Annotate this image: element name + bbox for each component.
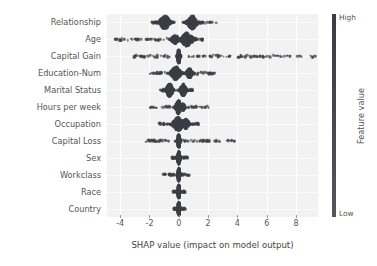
x-tick-label: -2 <box>145 219 153 228</box>
data-point <box>175 156 178 159</box>
data-point <box>172 190 175 193</box>
data-point <box>177 146 180 149</box>
data-point <box>171 124 174 127</box>
data-point <box>265 55 268 58</box>
data-point <box>164 26 167 29</box>
data-point <box>170 91 173 94</box>
data-point <box>183 140 186 143</box>
data-point <box>150 21 153 24</box>
data-point <box>198 140 201 143</box>
y-tick-label: Country <box>0 204 101 213</box>
data-point <box>183 173 186 176</box>
data-point <box>188 68 191 71</box>
data-point <box>195 38 198 41</box>
y-tick-label: Education-Num <box>0 69 101 78</box>
data-point <box>195 106 198 109</box>
data-point <box>140 55 143 58</box>
data-point <box>272 54 275 57</box>
data-point <box>151 140 154 143</box>
data-point <box>166 122 169 125</box>
data-point <box>177 170 180 173</box>
data-point <box>250 56 253 59</box>
data-point <box>188 174 191 177</box>
x-tick-mark <box>208 215 209 218</box>
data-point <box>192 123 195 126</box>
data-point <box>186 71 189 74</box>
data-point <box>201 107 204 110</box>
data-point <box>197 123 200 126</box>
data-point <box>213 72 216 75</box>
gridline-horizontal <box>107 107 318 108</box>
data-point <box>218 140 221 143</box>
data-point <box>157 21 160 24</box>
x-tick-mark <box>267 215 268 218</box>
x-tick-mark <box>179 215 180 218</box>
data-point <box>114 38 117 41</box>
data-point <box>166 22 169 25</box>
data-point <box>186 125 189 128</box>
data-point <box>179 173 182 176</box>
data-point <box>187 140 190 143</box>
x-tick-label: 8 <box>293 219 298 228</box>
colorbar-gradient-bar <box>332 14 336 217</box>
data-point <box>155 107 158 110</box>
data-point <box>182 92 185 95</box>
gridline-vertical <box>149 14 150 217</box>
data-point <box>175 40 178 43</box>
data-point <box>171 75 174 78</box>
data-point <box>176 73 179 76</box>
data-point <box>181 106 184 109</box>
gridline-vertical <box>237 14 238 217</box>
data-point <box>198 55 201 58</box>
data-point <box>153 72 156 75</box>
data-point <box>184 191 187 194</box>
data-point <box>186 38 189 41</box>
data-point <box>283 55 286 58</box>
data-point <box>182 34 185 37</box>
data-point <box>155 140 158 143</box>
data-point <box>227 139 230 142</box>
data-point <box>169 38 172 41</box>
data-point <box>222 56 225 59</box>
data-point <box>187 106 190 109</box>
data-point <box>200 22 203 25</box>
data-point <box>178 70 181 73</box>
data-point <box>175 119 178 122</box>
y-tick-label: Relationship <box>0 18 101 27</box>
data-point <box>133 56 136 59</box>
data-point <box>175 34 178 37</box>
data-point <box>185 44 188 47</box>
data-point <box>130 37 133 40</box>
data-point <box>213 140 216 143</box>
x-tick-mark <box>149 215 150 218</box>
data-point <box>217 54 220 57</box>
shap-summary-figure: RelationshipAgeCapital GainEducation-Num… <box>0 0 377 266</box>
data-point <box>163 71 166 74</box>
data-point <box>240 55 243 58</box>
colorbar-title-text: Feature value <box>356 88 366 144</box>
colorbar-title: Feature value <box>355 14 367 217</box>
gridline-horizontal <box>107 192 318 193</box>
data-point <box>167 56 170 59</box>
data-point <box>193 73 196 76</box>
data-point <box>178 143 181 146</box>
data-point <box>288 55 291 58</box>
data-point <box>229 55 232 58</box>
data-point <box>202 139 205 142</box>
data-point <box>206 140 209 143</box>
x-tick-label: 4 <box>235 219 240 228</box>
x-axis-tick-labels: -4-202468 <box>107 219 318 233</box>
x-axis-label: SHAP value (impact on model output) <box>107 240 318 250</box>
data-point <box>182 122 185 125</box>
data-point <box>187 89 190 92</box>
data-point <box>162 173 165 176</box>
data-point <box>211 21 214 24</box>
data-point <box>173 207 176 210</box>
data-point <box>204 55 207 58</box>
data-point <box>159 88 162 91</box>
data-point <box>173 173 176 176</box>
data-point <box>146 39 149 42</box>
data-point <box>268 55 271 58</box>
y-tick-label: Capital Loss <box>0 136 101 145</box>
data-point <box>158 37 161 40</box>
